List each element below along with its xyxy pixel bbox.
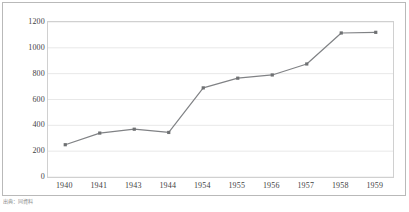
x-tick-label: 1944 — [159, 181, 176, 190]
data-point-marker — [98, 131, 101, 134]
data-point-marker — [340, 31, 343, 34]
figure-frame: 020040060080010001200 194019411943194419… — [2, 2, 406, 196]
x-tick-label: 1940 — [56, 181, 73, 190]
x-axis: 1940194119431944195419551956195719581959 — [47, 181, 394, 195]
data-point-marker — [202, 86, 205, 89]
y-tick-label: 0 — [9, 173, 45, 181]
data-point-marker — [133, 128, 136, 131]
x-tick-label: 1956 — [263, 181, 280, 190]
y-tick-label: 1200 — [9, 18, 45, 26]
data-point-marker — [236, 77, 239, 80]
x-tick-label: 1954 — [194, 181, 211, 190]
gridlines — [48, 22, 393, 177]
data-point-marker — [374, 31, 377, 34]
x-tick-label: 1955 — [228, 181, 245, 190]
data-point-marker — [305, 62, 308, 65]
x-tick-label: 1959 — [366, 181, 383, 190]
chart-page: 020040060080010001200 194019411943194419… — [0, 0, 409, 212]
x-tick-label: 1958 — [332, 181, 349, 190]
data-point-marker — [271, 73, 274, 76]
x-tick-label: 1941 — [90, 181, 107, 190]
line-chart-svg — [48, 22, 393, 177]
figure-caption: 出典：同資料 — [3, 199, 33, 205]
y-tick-label: 800 — [9, 70, 45, 78]
x-tick-label: 1957 — [297, 181, 314, 190]
y-tick-label: 600 — [9, 96, 45, 104]
y-axis: 020040060080010001200 — [3, 3, 45, 197]
data-point-marker — [64, 143, 67, 146]
y-tick-label: 1000 — [9, 44, 45, 52]
y-tick-label: 200 — [9, 147, 45, 155]
y-tick-label: 400 — [9, 121, 45, 129]
data-point-marker — [167, 131, 170, 134]
series-line-1 — [65, 32, 376, 144]
plot-area — [47, 21, 394, 178]
x-tick-label: 1943 — [125, 181, 142, 190]
